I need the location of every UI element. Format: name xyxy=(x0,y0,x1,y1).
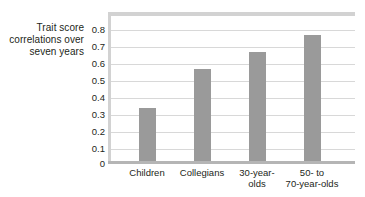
plot-area xyxy=(108,12,355,164)
bar-collegians xyxy=(194,69,211,161)
y-tick-label-0.8: 0.8 xyxy=(84,25,105,35)
y-tick-label-0.7: 0.7 xyxy=(84,42,105,52)
y-tick-label-0.3: 0.3 xyxy=(84,110,105,120)
y-axis-title-line-3: seven years xyxy=(0,46,84,58)
x-axis-line xyxy=(108,161,355,164)
y-axis-title: Trait score correlations over seven year… xyxy=(0,22,84,59)
bar-children xyxy=(139,108,156,161)
y-tick-label-0.5: 0.5 xyxy=(84,76,105,86)
y-tick-label-0.4: 0.4 xyxy=(84,93,105,103)
y-tick-label-0.2: 0.2 xyxy=(84,127,105,137)
bar-50-to-70-year-olds xyxy=(304,35,321,161)
bar-chart-figure: Trait score correlations over seven year… xyxy=(0,0,365,197)
y-tick-label-0.1: 0.1 xyxy=(84,144,105,154)
x-label-50-to-70-year-olds-line-1: 50- to xyxy=(275,167,349,178)
gridline-0.8 xyxy=(111,30,355,31)
plot-frame-left xyxy=(108,12,111,164)
x-label-50-to-70-year-olds: 50- to 70-year-olds xyxy=(275,167,349,190)
y-axis-title-line-1: Trait score xyxy=(0,22,84,34)
y-tick-label-0.6: 0.6 xyxy=(84,59,105,69)
bar-30-year-olds xyxy=(249,52,266,161)
x-axis-category-labels: Children Collegians 30-year- olds 50- to… xyxy=(108,167,355,197)
y-axis-title-line-2: correlations over xyxy=(0,34,84,46)
x-label-50-to-70-year-olds-line-2: 70-year-olds xyxy=(275,178,349,189)
y-axis-tick-labels: 0.8 0.7 0.6 0.5 0.4 0.3 0.2 0.1 0 xyxy=(84,12,105,164)
plot-frame-top xyxy=(108,12,355,16)
y-tick-label-0: 0 xyxy=(84,159,105,169)
